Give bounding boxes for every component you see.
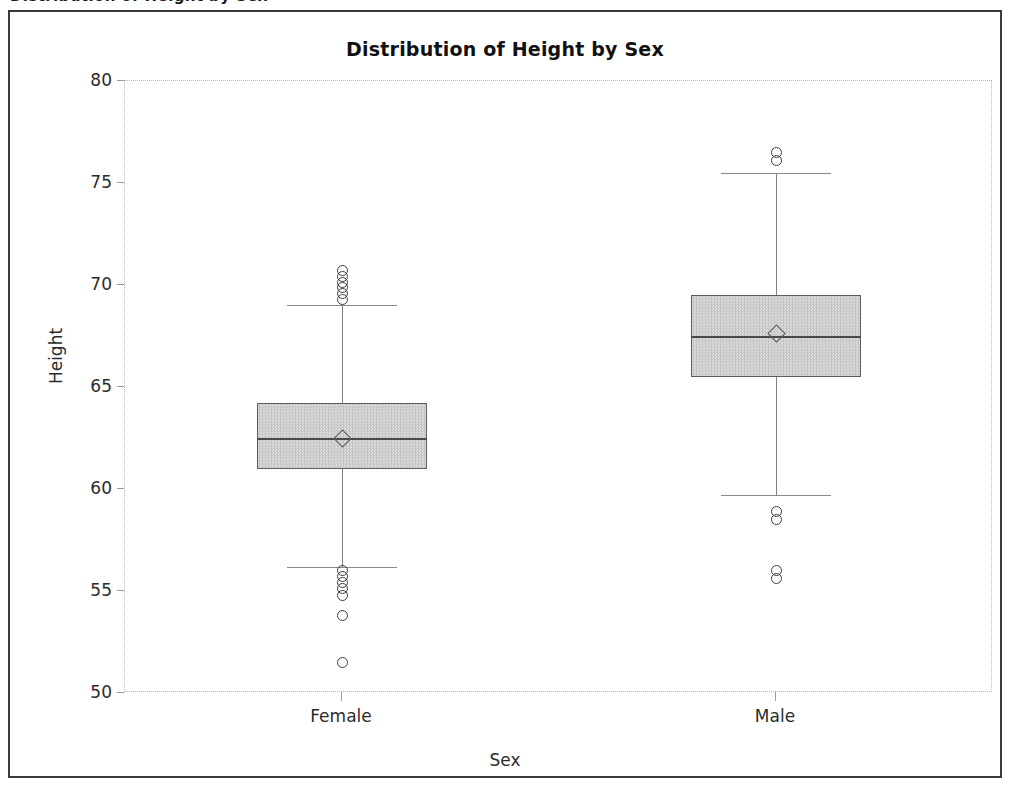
clipped-top-text-strip: Distribution of Height by Sex [0, 0, 1015, 6]
y-tick-label: 65 [24, 376, 112, 396]
y-tick-mark [117, 488, 124, 489]
outlier-point-male [771, 506, 782, 517]
y-tick-label: 55 [24, 580, 112, 600]
outlier-point-female [337, 590, 348, 601]
y-tick-mark [117, 182, 124, 183]
y-tick-mark [117, 692, 124, 693]
y-tick-label: 75 [24, 172, 112, 192]
outlier-point-female [337, 657, 348, 668]
y-tick-mark [117, 80, 124, 81]
plot-area [124, 80, 992, 692]
chart-title: Distribution of Height by Sex [10, 38, 1000, 60]
x-tick-mark [341, 692, 342, 701]
y-tick-label: 80 [24, 70, 112, 90]
y-tick-label: 60 [24, 478, 112, 498]
whisker-cap-low-male [721, 495, 831, 496]
x-tick-mark [775, 692, 776, 701]
outlier-point-female [337, 610, 348, 621]
x-tick-label-female: Female [241, 706, 441, 726]
y-tick-label: 70 [24, 274, 112, 294]
y-axis-title: Height [46, 296, 66, 416]
x-axis-title: Sex [10, 750, 1000, 770]
y-tick-mark [117, 386, 124, 387]
x-tick-label-male: Male [675, 706, 875, 726]
outlier-point-female [337, 265, 348, 276]
y-tick-label: 50 [24, 682, 112, 702]
clipped-top-text: Distribution of Height by Sex [10, 0, 268, 5]
y-tick-mark [117, 284, 124, 285]
figure-frame: Distribution of Height by Sex Height 807… [8, 10, 1002, 778]
whisker-cap-high-male [721, 173, 831, 174]
outlier-point-male [771, 147, 782, 158]
whisker-cap-high-female [287, 305, 397, 306]
outlier-point-male [771, 565, 782, 576]
y-tick-mark [117, 590, 124, 591]
